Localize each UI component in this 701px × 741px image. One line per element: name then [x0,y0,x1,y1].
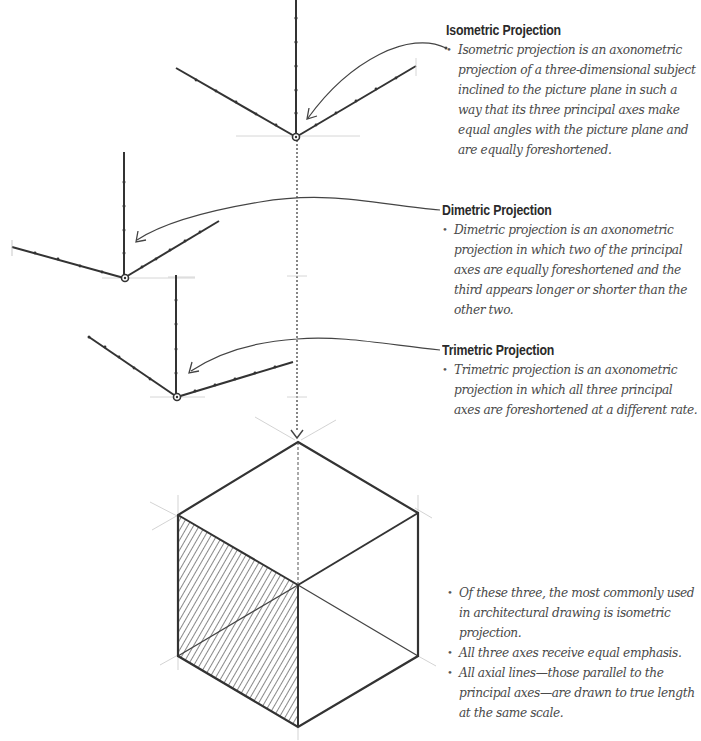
trimetric-axes [88,275,294,401]
isometric-cube [150,417,436,740]
dimetric-section: Dimetric Projection Dimetric projection … [442,202,700,320]
isometric-bullet-1: Isometric projection is an axonometric p… [446,40,696,160]
dimetric-axes [12,152,219,282]
isometric-section: Isometric Projection Isometric projectio… [446,22,696,160]
trimetric-heading: Trimetric Projection [442,342,669,358]
summary-bullet-2: All three axes receive equal emphasis. [447,643,697,663]
isometric-bullets: Isometric projection is an axonometric p… [446,40,696,160]
dimetric-bullets: Dimetric projection is an axonometric pr… [442,220,700,320]
isometric-axes [176,0,416,141]
isometric-callout-arrow [307,43,448,119]
dimetric-bullet-1: Dimetric projection is an axonometric pr… [442,220,700,320]
isometric-heading: Isometric Projection [446,22,666,38]
dimetric-heading: Dimetric Projection [442,202,669,218]
center-dashed-line [291,140,303,438]
summary-bullets: Of these three, the most commonly used i… [447,583,697,723]
summary-bullet-1: Of these three, the most commonly used i… [447,583,697,643]
summary-bullet-3: All axial lines—those parallel to the pr… [447,663,697,723]
trimetric-bullet-1: Trimetric projection is an axonometric p… [442,360,700,420]
trimetric-bullets: Trimetric projection is an axonometric p… [442,360,700,420]
dimetric-callout-arrow [136,197,440,242]
trimetric-callout-arrow [189,338,440,373]
summary-section: Of these three, the most commonly used i… [447,583,697,723]
trimetric-section: Trimetric Projection Trimetric projectio… [442,342,700,420]
